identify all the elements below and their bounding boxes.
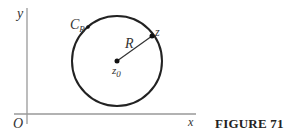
- radius-segment: [117, 36, 152, 61]
- center-label: z0: [112, 65, 121, 79]
- point-z-label: z: [155, 26, 160, 38]
- x-axis-label: x: [188, 116, 193, 128]
- circle-label-sub: R: [79, 24, 85, 34]
- center-point: [115, 59, 120, 64]
- center-label-sub: 0: [116, 69, 121, 79]
- circle-label: CR: [70, 18, 85, 34]
- y-axis-label: y: [17, 7, 23, 21]
- point-on-circle: [86, 25, 90, 29]
- circle-label-main: C: [70, 17, 79, 32]
- origin-label: O: [13, 117, 23, 131]
- point-z: [150, 34, 155, 39]
- figure-caption: FIGURE 71: [215, 116, 284, 132]
- radius-label: R: [125, 37, 134, 51]
